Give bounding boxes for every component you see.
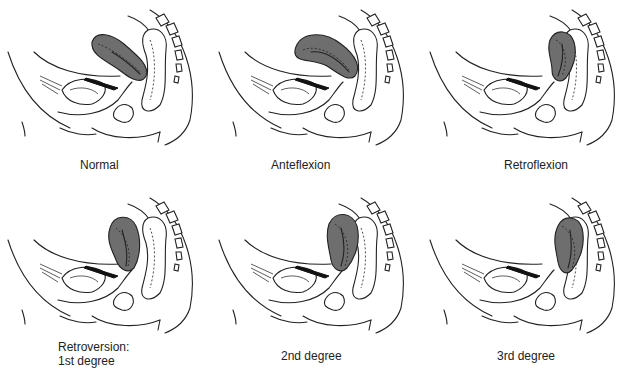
panel-normal: Normal <box>0 0 211 187</box>
panel-retroversion-2nd: 2nd degree <box>211 188 422 375</box>
panel-label-retroflexion: Retroflexion <box>504 158 568 172</box>
panel-retroversion-1st: Retroversion: 1st degree <box>0 188 211 375</box>
uterus-shape <box>109 217 140 271</box>
panel-label-retroversion-2nd: 2nd degree <box>281 349 342 363</box>
panel-anteflexion: Anteflexion <box>211 0 422 187</box>
pelvis-diagram-retroversion-3rd <box>422 188 633 353</box>
uterus-shape <box>92 35 147 81</box>
pelvis-diagram-retroversion-1st <box>0 188 211 353</box>
panel-label-normal: Normal <box>80 158 119 172</box>
panel-retroversion-3rd: 3rd degree <box>422 188 633 375</box>
panel-label-anteflexion: Anteflexion <box>271 158 330 172</box>
panel-label-retroversion-3rd: 3rd degree <box>497 349 555 363</box>
pelvis-diagram-retroflexion <box>422 0 633 165</box>
panel-label-retroversion-1st: Retroversion: 1st degree <box>58 340 129 368</box>
pelvis-diagram-anteflexion <box>211 0 422 165</box>
panel-retroflexion: Retroflexion <box>422 0 633 187</box>
uterus-shape <box>327 214 358 270</box>
pelvis-diagram-retroversion-2nd <box>211 188 422 353</box>
pelvis-diagram-normal <box>0 0 211 165</box>
